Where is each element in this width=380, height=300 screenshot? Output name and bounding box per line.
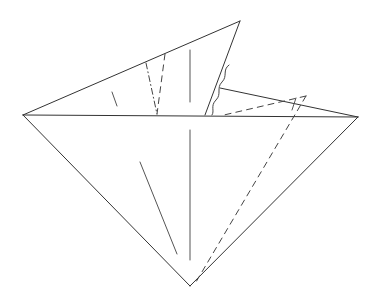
outline-edge xyxy=(23,115,190,286)
valley-fold-lines xyxy=(157,54,306,282)
mountain-fold-lines xyxy=(146,63,157,114)
valley-fold xyxy=(157,54,165,114)
diagram-svg xyxy=(0,0,380,300)
valley-fold xyxy=(196,96,306,282)
outline-edge xyxy=(220,88,358,117)
origami-diagram xyxy=(0,0,380,300)
outline-edge xyxy=(205,21,240,115)
outline-edge xyxy=(190,117,358,286)
outline-edge xyxy=(23,21,240,115)
mountain-fold xyxy=(146,63,157,114)
outline-edge xyxy=(23,115,358,117)
crease xyxy=(112,92,117,106)
crease-lines xyxy=(112,50,296,260)
